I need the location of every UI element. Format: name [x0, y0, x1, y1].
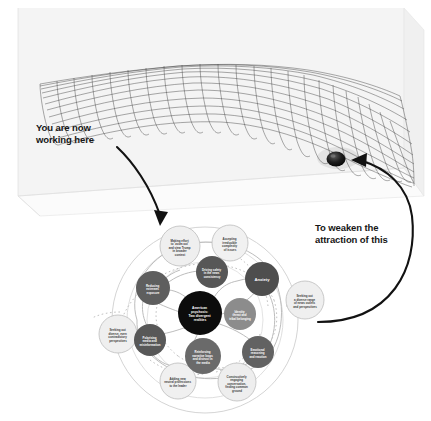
- callout-you-are-now-working-here: You are now working here: [36, 122, 94, 146]
- inner-node-reducing-extremes-exposure[interactable]: Reducing extremes exposure: [136, 271, 170, 305]
- svg-text:Driving safety in th: Driving safety in the news consistency: [202, 268, 222, 279]
- systems-map: Making effort to 'zoom out' and view Tru…: [92, 225, 324, 413]
- outer-node-seeking-contradictory-perspectives[interactable]: Seeking out diverse, even contradictory …: [99, 315, 137, 353]
- inner-node-reinforcing-narrative-loops[interactable]: Reinforcing narrative loops and distrust…: [185, 338, 221, 374]
- inner-node-driving-safety-in-the-news-consistency[interactable]: Driving safety in the news consistency: [196, 256, 228, 288]
- svg-text:Accepting irreducibl: Accepting irreducible complexity of issu…: [222, 237, 238, 252]
- center-node-american-psychosis[interactable]: American psychosis: Two divergent realit…: [178, 291, 222, 335]
- inner-node-polarising-media-information[interactable]: Polarising media and misinformation: [134, 324, 166, 356]
- outer-node-diverse-news-outlets[interactable]: Seeking out a diverse range of news outl…: [286, 281, 324, 319]
- inner-node-emotional-reasoning[interactable]: Emotional reasoning and reaction: [242, 336, 274, 368]
- svg-text:Seeking out a divers: Seeking out a diverse range of news outl…: [293, 294, 317, 309]
- outer-node-accepting-complexity[interactable]: Accepting irreducible complexity of issu…: [212, 225, 248, 261]
- systems-map-figure: Making effort to 'zoom out' and view Tru…: [0, 0, 431, 421]
- outer-node-zoom-out-broader-context[interactable]: Making effort to 'zoom out' and view Tru…: [160, 226, 200, 266]
- inner-node-uncertainty[interactable]: Identity threat and tribal belonging: [224, 298, 256, 330]
- inner-node-anxiety[interactable]: Anxiety: [245, 262, 279, 296]
- svg-text:Seeking out diverse,: Seeking out diverse, even contradictory …: [108, 328, 127, 343]
- svg-text:Emotional reasoning: Emotional reasoning and reaction: [249, 348, 266, 359]
- svg-text:Anxiety: Anxiety: [254, 277, 270, 282]
- figure-canvas: Making effort to 'zoom out' and view Tru…: [0, 0, 431, 421]
- outer-node-constructive-dialogue[interactable]: Constructively engaging conversation, fi…: [218, 363, 256, 401]
- callout-to-weaken-the-attraction-of-this: To weaken the attraction of this: [315, 222, 388, 246]
- svg-text:Reducing extremes: Reducing extremes exposure: [146, 284, 160, 295]
